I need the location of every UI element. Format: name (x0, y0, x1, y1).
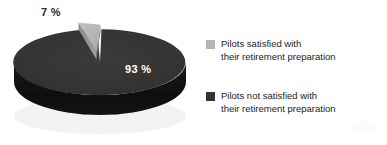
data-label-large-slice: 93 % (125, 63, 151, 75)
legend-label-not-satisfied: Pilots not satisfied with their retireme… (221, 90, 336, 115)
legend-item-not-satisfied: Pilots not satisfied with their retireme… (206, 90, 336, 115)
background-artifact (351, 121, 379, 131)
data-label-small-slice: 7 % (41, 6, 61, 18)
pie-graphic: 7 % 93 % (0, 0, 195, 145)
pie-svg (0, 0, 195, 145)
legend-swatch-satisfied (206, 40, 215, 49)
legend-item-satisfied: Pilots satisfied with their retirement p… (206, 38, 336, 63)
pie-chart: 7 % 93 % Pilots satisfied with their ret… (0, 0, 387, 145)
legend-label-satisfied: Pilots satisfied with their retirement p… (221, 38, 336, 63)
legend-swatch-not-satisfied (206, 92, 215, 101)
